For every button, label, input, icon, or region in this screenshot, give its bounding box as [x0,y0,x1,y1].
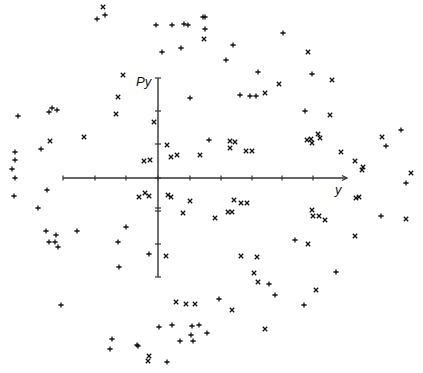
plus-marker [94,16,99,21]
plus-marker [115,239,120,244]
plus-marker [272,292,277,297]
plus-marker [15,113,20,118]
plus-marker [153,22,158,27]
cross-marker [188,199,192,203]
cross-marker [147,354,151,358]
plus-marker [74,228,79,233]
cross-marker [142,159,146,163]
cross-marker [174,300,178,304]
plus-marker [11,193,16,198]
cross-marker [245,201,249,205]
plus-marker [181,21,186,26]
cross-marker [256,280,260,284]
cross-marker [184,302,188,306]
cross-marker [148,158,152,162]
plus-marker [44,187,49,192]
cross-marker [309,137,313,141]
plus-marker [169,322,174,327]
cross-marker [165,143,169,147]
cross-marker [226,210,230,214]
plus-marker [12,157,17,162]
plus-marker [35,205,40,210]
plus-markers-series [9,12,408,364]
cross-marker [328,113,332,117]
cross-marker [317,214,321,218]
cross-marker [316,132,320,136]
plus-marker [253,93,258,98]
plus-marker [378,213,383,218]
plus-marker [38,146,43,151]
axes [63,78,347,277]
plus-marker [196,322,201,327]
cross-marker [252,271,256,275]
cross-marker [228,139,232,143]
cross-marker [114,112,118,116]
plus-marker [188,332,193,337]
plus-marker [12,149,17,154]
plus-marker [164,359,169,364]
plus-marker [46,239,51,244]
plus-marker [333,269,338,274]
plus-marker [12,175,17,180]
cross-marker [306,50,310,54]
cross-marker [323,218,327,222]
cross-marker [116,95,120,99]
cross-marker [198,153,202,157]
plus-marker [55,244,60,249]
plus-marker [398,127,403,132]
plus-marker [280,30,285,35]
cross-marker [263,91,267,95]
plus-marker [255,69,260,74]
cross-marker [318,136,322,140]
plus-marker [102,12,107,17]
cross-marker [213,216,217,220]
plus-marker [187,95,192,100]
plus-marker [202,26,207,31]
cross-marker [233,140,237,144]
cross-marker [409,171,413,175]
cross-marker [230,210,234,214]
plus-marker [301,302,306,307]
cross-marker [339,150,343,154]
plus-marker [53,232,58,237]
plus-marker [189,323,194,328]
plus-marker [52,239,57,244]
plus-marker [185,22,190,27]
cross-marker [175,153,179,157]
cross-marker [244,149,248,153]
plus-marker [107,346,112,351]
cross-marker [48,139,52,143]
plus-marker [156,324,161,329]
plus-marker [204,330,209,335]
plus-marker [216,296,221,301]
plus-marker [134,342,139,347]
cross-marker [404,217,408,221]
cross-marker [193,302,197,306]
plus-marker [177,338,182,343]
y-axis-label: Py [136,74,153,89]
cross-marker [305,138,309,142]
cross-marker [101,5,105,9]
plus-marker [266,281,271,286]
plus-marker [223,57,228,62]
cross-marker [239,254,243,258]
cross-marker [202,37,206,41]
cross-marker [314,288,318,292]
cross-marker [263,327,267,331]
cross-marker [310,141,314,145]
cross-marker [152,120,156,124]
plus-marker [403,180,408,185]
plus-marker [292,237,297,242]
plus-marker [58,302,63,307]
plus-marker [178,45,183,50]
cross-marker [146,359,150,363]
cross-marker [121,73,125,77]
cross-marker [306,242,310,246]
plus-marker [116,264,121,269]
cross-marker [250,149,254,153]
plus-marker [46,109,51,114]
plus-marker [206,137,211,142]
plus-marker [135,343,140,348]
plus-marker [247,93,252,98]
cross-marker [147,194,151,198]
